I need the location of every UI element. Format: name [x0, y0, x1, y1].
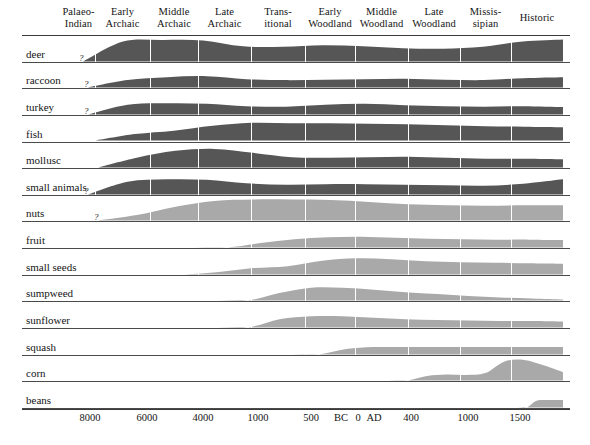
column-separator [511, 196, 512, 221]
column-separator [511, 276, 512, 301]
column-separator [150, 37, 151, 62]
period-label-line: Indian [62, 18, 95, 30]
column-separator [95, 170, 96, 195]
column-separator [460, 37, 461, 62]
chart-row-small-animals: small animals? [0, 169, 590, 196]
column-separator [355, 223, 356, 248]
area-band-nuts [0, 195, 590, 222]
axis-tick-8000: 8000 [65, 412, 115, 424]
column-separator [198, 90, 199, 115]
column-separator [408, 303, 409, 328]
period-label-line: Late [198, 6, 251, 18]
column-separator [460, 356, 461, 381]
column-separator [460, 196, 461, 221]
column-separator [355, 63, 356, 88]
column-separator [251, 196, 252, 221]
axis-tick-4000: 4000 [178, 412, 228, 424]
column-separator [355, 250, 356, 275]
column-separator [355, 143, 356, 168]
period-label-line: Palaeo- [62, 6, 95, 18]
column-separator [355, 303, 356, 328]
axis-tick-1000: 1000 [443, 412, 493, 424]
period-label-line: Missis- [460, 6, 511, 18]
column-separator [511, 116, 512, 141]
period-label-line: Archaic [95, 18, 150, 30]
column-separator [460, 143, 461, 168]
period-label-line: Middle [150, 6, 198, 18]
area-band-sumpweed [0, 275, 590, 302]
column-separator [150, 143, 151, 168]
period-label-early-archaic: EarlyArchaic [95, 6, 150, 29]
area-band-deer [0, 36, 590, 63]
chart-row-raccoon: raccoon? [0, 63, 590, 90]
axis-tick-1000: 1000 [233, 412, 283, 424]
period-label-line: Archaic [150, 18, 198, 30]
column-separator [305, 90, 306, 115]
chart-row-deer: deer? [0, 36, 590, 63]
area-band-mollusc [0, 142, 590, 169]
column-separator [198, 170, 199, 195]
column-separator [251, 37, 252, 62]
column-separator [408, 223, 409, 248]
column-separator [460, 276, 461, 301]
column-separator [251, 276, 252, 301]
chart-row-corn: corn [0, 356, 590, 383]
chart-row-small-seeds: small seeds [0, 249, 590, 276]
period-label-line: Woodland [355, 18, 408, 30]
area-band-corn [0, 355, 590, 382]
column-separator [251, 143, 252, 168]
chart-row-beans: beans [0, 382, 590, 409]
period-label-line: Woodland [305, 18, 355, 30]
period-label-line: Woodland [408, 18, 460, 30]
column-separator [251, 116, 252, 141]
column-separator [460, 63, 461, 88]
column-separator [95, 90, 96, 115]
column-separator [305, 170, 306, 195]
period-label-late-woodland: LateWoodland [408, 6, 460, 29]
column-separator [251, 250, 252, 275]
area-band-fruit [0, 222, 590, 249]
column-separator [305, 196, 306, 221]
column-separator [355, 196, 356, 221]
column-separator [511, 90, 512, 115]
column-separator [150, 90, 151, 115]
column-separator [408, 63, 409, 88]
period-label-line: Early [305, 6, 355, 18]
column-separator [408, 143, 409, 168]
column-separator [355, 116, 356, 141]
column-separator [305, 303, 306, 328]
column-separator [198, 250, 199, 275]
column-separator [150, 116, 151, 141]
column-separator [511, 250, 512, 275]
column-separator [511, 330, 512, 355]
area-band-sunflower [0, 302, 590, 329]
period-label-late-archaic: LateArchaic [198, 6, 251, 29]
column-separator [305, 63, 306, 88]
joy-plot-chart: Palaeo-IndianEarlyArchaicMiddleArchaicLa… [0, 0, 590, 445]
chart-row-nuts: nuts? [0, 196, 590, 223]
column-separator [198, 116, 199, 141]
column-separator [305, 330, 306, 355]
column-separator [408, 250, 409, 275]
column-separator [511, 143, 512, 168]
column-separator [408, 196, 409, 221]
period-label-middle-woodland: MiddleWoodland [355, 6, 408, 29]
column-separator [251, 90, 252, 115]
period-label-line: sipian [460, 18, 511, 30]
column-separator [305, 37, 306, 62]
column-separator [511, 170, 512, 195]
column-separator [198, 223, 199, 248]
axis-tick-400: 400 [386, 412, 436, 424]
period-label-line: Middle [355, 6, 408, 18]
column-separator [460, 116, 461, 141]
column-separator [460, 330, 461, 355]
period-label-line: itional [251, 18, 305, 30]
period-label-missis-sipian: Missis-sipian [460, 6, 511, 29]
column-separator [198, 303, 199, 328]
column-separator [251, 223, 252, 248]
chart-row-squash: squash [0, 329, 590, 356]
period-label-early-woodland: EarlyWoodland [305, 6, 355, 29]
period-label-trans-itional: Trans-itional [251, 6, 305, 29]
column-separator [251, 330, 252, 355]
period-label-middle-archaic: MiddleArchaic [150, 6, 198, 29]
